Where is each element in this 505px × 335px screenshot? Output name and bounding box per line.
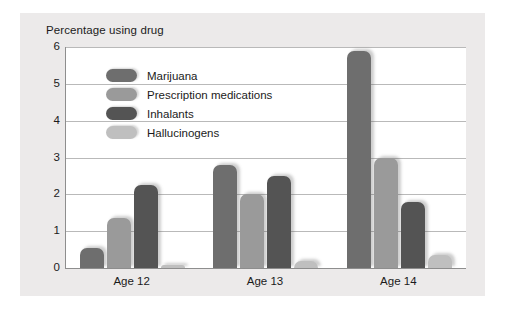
bar: [134, 185, 158, 268]
bar: [294, 261, 318, 268]
y-axis-tick-label: 3: [54, 152, 60, 164]
legend-item: Marijuana: [106, 66, 272, 85]
bar: [240, 194, 264, 268]
x-axis-tick-label: Age 12: [113, 275, 149, 287]
legend-swatch: [106, 88, 137, 101]
y-axis-tick-label: 2: [54, 189, 60, 201]
legend-item: Prescription medications: [106, 85, 272, 104]
chart-legend: MarijuanaPrescription medicationsInhalan…: [106, 66, 272, 142]
y-axis-tick-label: 0: [54, 262, 60, 274]
legend-item: Hallucinogens: [106, 123, 272, 142]
bar: [374, 158, 398, 269]
bar: [213, 165, 237, 268]
legend-label: Prescription medications: [147, 89, 272, 101]
chart-title: Percentage using drug: [46, 24, 164, 36]
legend-label: Marijuana: [147, 70, 198, 82]
x-axis-tick-label: Age 13: [247, 275, 283, 287]
x-axis-tick-label: Age 14: [380, 275, 416, 287]
bar: [161, 265, 185, 268]
legend-label: Hallucinogens: [147, 127, 219, 139]
bar: [428, 255, 452, 268]
legend-swatch: [106, 126, 137, 139]
bar-group: [333, 47, 466, 268]
bar: [107, 218, 131, 268]
legend-swatch: [106, 107, 137, 120]
chart-figure: Percentage using drug 0123456 Age 12Age …: [20, 13, 485, 296]
bar: [401, 202, 425, 268]
bar: [267, 176, 291, 268]
legend-label: Inhalants: [147, 108, 194, 120]
bar: [347, 51, 371, 268]
legend-item: Inhalants: [106, 104, 272, 123]
y-axis-tick-label: 1: [54, 225, 60, 237]
y-axis-tick-label: 4: [54, 115, 60, 127]
y-axis-tick-label: 6: [54, 41, 60, 53]
bar: [80, 248, 104, 268]
y-axis-tick-label: 5: [54, 78, 60, 90]
legend-swatch: [106, 69, 137, 82]
